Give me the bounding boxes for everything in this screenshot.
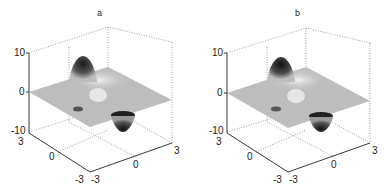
plot-canvas (0, 0, 194, 192)
y-tick-3: 3 (216, 137, 222, 147)
z-tick-0: 0 (217, 88, 223, 98)
y-tick-0: 0 (247, 152, 253, 162)
x-tick-3: 3 (174, 146, 180, 156)
y-tick-neg3: -3 (273, 175, 282, 185)
z-tick-neg10: -10 (209, 126, 223, 136)
x-tick-3: 3 (372, 146, 378, 156)
z-tick-10: 10 (212, 48, 223, 58)
z-tick-0: 0 (19, 87, 25, 97)
y-tick-neg3: -3 (75, 175, 84, 185)
plot-title: b (295, 8, 300, 18)
plot-canvas (195, 0, 388, 192)
x-tick-0: 0 (133, 160, 139, 170)
y-tick-0: 0 (49, 152, 55, 162)
plot-title: a (97, 8, 102, 18)
x-tick-0: 0 (331, 160, 337, 170)
surface-plot-a: a 10 0 -10 3 0 -3 -3 0 3 (0, 0, 194, 192)
x-tick-neg3: -3 (289, 175, 298, 185)
z-tick-neg10: -10 (11, 126, 25, 136)
surface-plot-b: b 10 0 -10 3 0 -3 -3 0 3 (195, 0, 388, 192)
y-tick-3: 3 (18, 137, 24, 147)
z-tick-10: 10 (14, 48, 25, 58)
x-tick-neg3: -3 (91, 175, 100, 185)
